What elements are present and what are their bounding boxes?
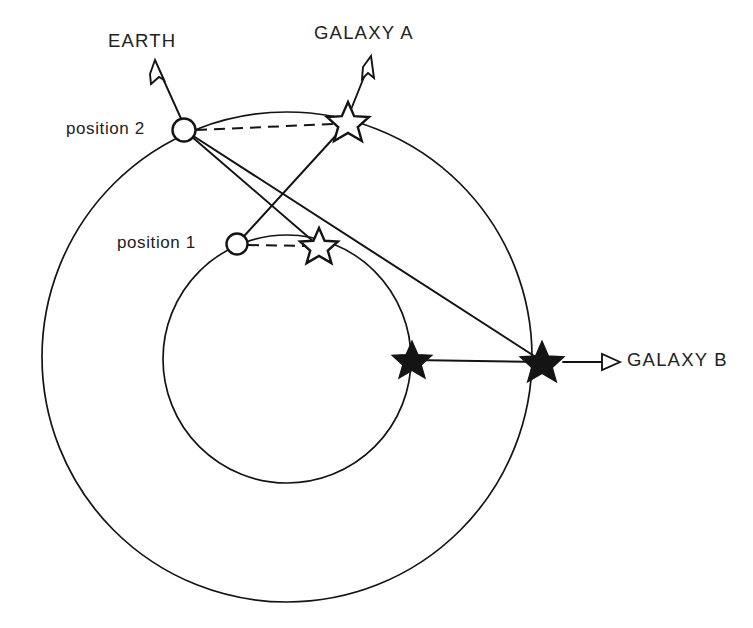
filled-star-galaxy-b-inner-icon: [392, 341, 432, 378]
earth-arrow-head-icon: [150, 60, 164, 84]
parallax-diagram-figure: EARTH GALAXY A GALAXY B position 2 posit…: [0, 0, 753, 628]
outer-orbit-circle: [42, 112, 532, 602]
filled-star-galaxy-b-outer-icon: [520, 341, 564, 382]
label-earth: EARTH: [108, 30, 176, 52]
sight-line-galaxy-b-markers: [412, 360, 542, 362]
open-star-apparent-galaxy-a-lower-icon: [300, 228, 338, 263]
diagram-canvas: [0, 0, 753, 628]
observer-marker-position-1: [227, 234, 248, 255]
sight-line-position-2-to-near-star: [184, 130, 321, 248]
observer-marker-position-2: [173, 119, 196, 142]
dashed-apparent-direction-position-1: [248, 245, 306, 246]
galaxy-b-arrow-head-icon: [602, 354, 620, 370]
label-galaxy-b: GALAXY B: [627, 349, 728, 371]
label-galaxy-a: GALAXY A: [314, 22, 414, 44]
inner-orbit-circle: [163, 235, 411, 483]
label-position-2: position 2: [66, 119, 145, 139]
open-star-apparent-galaxy-a-upper-icon: [327, 102, 369, 141]
label-position-1: position 1: [117, 233, 196, 253]
galaxy-a-arrow-head-icon: [362, 56, 374, 79]
dashed-apparent-direction-position-2: [196, 124, 334, 130]
